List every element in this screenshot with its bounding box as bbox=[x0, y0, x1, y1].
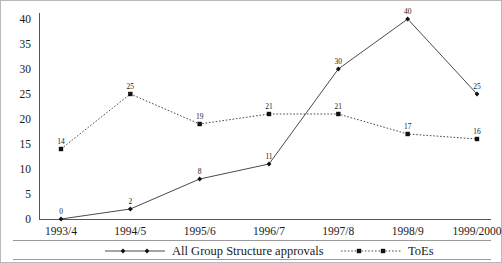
data-point-label: 25 bbox=[127, 82, 135, 91]
x-tick-label: 1999/2000 bbox=[452, 225, 501, 237]
legend-marker bbox=[381, 249, 385, 253]
y-axis-tick-labels: 0510152025303540 bbox=[20, 13, 32, 225]
data-point-label: 25 bbox=[473, 82, 481, 91]
y-tick-label: 25 bbox=[20, 88, 32, 100]
line-chart: 0510152025303540 1993/41994/51995/61996/… bbox=[1, 1, 502, 263]
y-tick-label: 10 bbox=[20, 163, 32, 175]
data-point-marker bbox=[405, 132, 409, 136]
data-point-label: 16 bbox=[473, 127, 481, 136]
y-tick-label: 0 bbox=[25, 213, 31, 225]
data-point-label: 40 bbox=[404, 7, 412, 16]
data-point-marker bbox=[475, 137, 479, 141]
legend-marker bbox=[145, 248, 150, 253]
x-axis-tick-labels: 1993/41994/51995/61996/71997/81998/91999… bbox=[45, 225, 502, 237]
data-point-marker bbox=[197, 122, 201, 126]
data-point-marker bbox=[267, 112, 271, 116]
x-tick-label: 1995/6 bbox=[184, 225, 216, 237]
data-point-marker bbox=[59, 147, 63, 151]
legend-label: ToEs bbox=[408, 244, 434, 258]
data-point-label: 19 bbox=[196, 112, 204, 121]
chart-legend: All Group Structure approvalsToEs bbox=[105, 244, 434, 258]
x-tick-label: 1993/4 bbox=[45, 225, 77, 237]
data-point-label: 17 bbox=[404, 122, 412, 131]
chart-container: 0510152025303540 1993/41994/51995/61996/… bbox=[0, 0, 502, 263]
legend-marker bbox=[357, 249, 361, 253]
data-point-label: 30 bbox=[335, 57, 343, 66]
data-point-label: 21 bbox=[265, 102, 273, 111]
y-tick-label: 5 bbox=[25, 188, 31, 200]
data-labels-layer: 0281130402514251921211716 bbox=[57, 7, 481, 216]
data-point-label: 0 bbox=[59, 207, 63, 216]
data-point-label: 11 bbox=[265, 152, 272, 161]
data-point-label: 2 bbox=[128, 197, 132, 206]
y-tick-label: 20 bbox=[20, 113, 32, 125]
data-point-marker bbox=[197, 176, 202, 181]
series-layer bbox=[59, 16, 480, 221]
x-tick-label: 1996/7 bbox=[253, 225, 285, 237]
data-point-label: 14 bbox=[57, 137, 65, 146]
y-tick-label: 40 bbox=[20, 13, 32, 25]
legend-label: All Group Structure approvals bbox=[172, 244, 324, 258]
data-point-marker bbox=[128, 92, 132, 96]
x-tick-label: 1994/5 bbox=[114, 225, 146, 237]
x-tick-label: 1997/8 bbox=[322, 225, 354, 237]
y-tick-label: 30 bbox=[20, 63, 32, 75]
legend-marker bbox=[121, 248, 126, 253]
data-point-label: 21 bbox=[335, 102, 343, 111]
y-tick-label: 35 bbox=[20, 38, 32, 50]
data-point-marker bbox=[59, 216, 64, 221]
data-point-marker bbox=[128, 206, 133, 211]
y-tick-label: 15 bbox=[20, 138, 32, 150]
data-point-marker bbox=[336, 112, 340, 116]
data-point-label: 8 bbox=[198, 167, 202, 176]
x-tick-label: 1998/9 bbox=[392, 225, 424, 237]
series-line bbox=[61, 19, 477, 219]
